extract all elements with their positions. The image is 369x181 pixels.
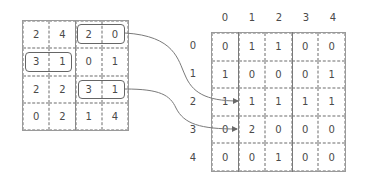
arrow-pair-to-row2 (125, 33, 238, 101)
arrow-pair-to-row3 (125, 89, 237, 129)
mapping-arrows (0, 0, 369, 181)
